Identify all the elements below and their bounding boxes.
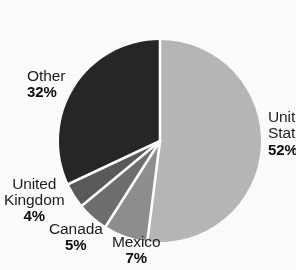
pie-label-united-states-name-line2: State: [268, 125, 296, 141]
pie-label-united-states-value: 52%: [268, 142, 296, 158]
pie-label-canada-value: 5%: [49, 237, 103, 253]
pie-label-other-name: Other: [27, 68, 65, 84]
pie-label-other-value: 32%: [27, 84, 65, 100]
pie-label-united-states-name-line1: Unite: [268, 109, 296, 125]
pie-chart-canvas: [0, 0, 296, 270]
pie-label-canada: Canada 5%: [49, 221, 103, 253]
pie-label-canada-name: Canada: [49, 221, 103, 237]
pie-slice-united-states: [147, 40, 261, 242]
pie-label-united-kingdom-name-line1: United: [4, 176, 64, 192]
pie-label-mexico-value: 7%: [112, 250, 161, 266]
pie-chart-figure: Unite State 52% Other 32% United Kingdom…: [0, 0, 296, 270]
pie-label-united-kingdom: United Kingdom 4%: [4, 176, 64, 224]
pie-label-mexico: Mexico 7%: [112, 234, 161, 266]
pie-label-united-states: Unite State 52%: [268, 109, 296, 158]
pie-label-mexico-name: Mexico: [112, 234, 161, 250]
pie-label-other: Other 32%: [27, 68, 65, 100]
pie-label-united-kingdom-name-line2: Kingdom: [4, 192, 64, 208]
